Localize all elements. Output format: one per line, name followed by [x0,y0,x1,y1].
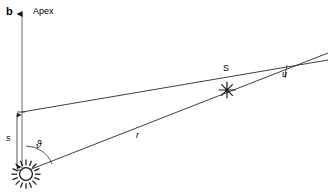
apex-label: Apex [33,7,54,16]
radius-label: r [136,131,139,140]
separation-label: s [6,134,11,143]
figure-panel-b: b Apex s ϑ r S u [0,0,328,194]
theta-angle-label: ϑ [36,140,42,150]
apex-direction-ray [22,60,328,112]
panel-letter-label: b [6,6,13,17]
sun-symbol [11,160,40,189]
u-angle-label: u [282,70,287,79]
star-symbol [219,82,235,98]
diagram-canvas [0,0,328,194]
star-label: S [223,64,229,73]
